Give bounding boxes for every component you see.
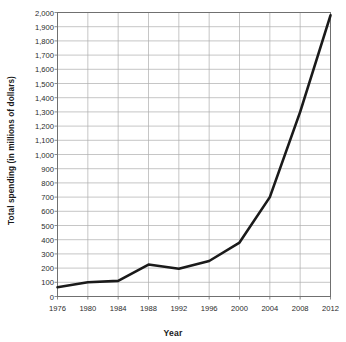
x-tick-label: 2000: [231, 304, 248, 313]
x-tick-label: 1996: [201, 304, 218, 313]
x-tick-label: 2004: [261, 304, 278, 313]
x-tick-label: 2012: [322, 304, 339, 313]
x-axis-tick-labels: 1976198019841988199219962000200420082012: [0, 0, 346, 342]
x-tick-label: 1992: [170, 304, 187, 313]
x-tick-label: 2008: [292, 304, 309, 313]
x-axis-title: Year: [0, 322, 346, 340]
x-tick-label: 1976: [49, 304, 66, 313]
x-tick-label: 1988: [140, 304, 157, 313]
x-tick-label: 1980: [79, 304, 96, 313]
x-tick-label: 1984: [110, 304, 127, 313]
line-chart: Total spending (in millions of dollars) …: [0, 0, 346, 342]
x-axis-title-text: Year: [164, 328, 183, 338]
